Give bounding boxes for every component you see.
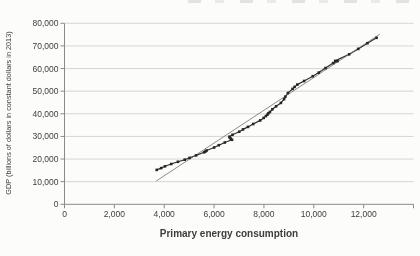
chart-figure: 010,00020,00030,00040,00050,00060,00070,… <box>0 0 420 256</box>
data-point-marker <box>228 135 231 138</box>
data-point-marker <box>224 141 227 144</box>
y-tick-label: 80,000 <box>33 18 59 28</box>
data-point-marker <box>366 42 369 45</box>
data-point-marker <box>155 169 158 172</box>
data-point-marker <box>218 144 221 147</box>
x-tick-label: 4,000 <box>154 209 176 219</box>
data-point-marker <box>318 71 321 74</box>
x-tick-label: 2,000 <box>104 209 126 219</box>
data-point-marker <box>312 75 315 78</box>
data-point-marker <box>280 102 283 105</box>
tick-labels: 010,00020,00030,00040,00050,00060,00070,… <box>33 18 377 219</box>
x-tick-label: 12,000 <box>351 209 377 219</box>
data-point-marker <box>269 111 272 114</box>
axes <box>61 23 414 208</box>
data-point-marker <box>284 95 287 98</box>
data-point-marker <box>252 123 255 126</box>
data-point-marker <box>160 167 163 170</box>
y-tick-label: 40,000 <box>33 109 59 119</box>
y-tick-label: 0 <box>54 199 59 209</box>
gdp-energy-chart: 010,00020,00030,00040,00050,00060,00070,… <box>0 0 420 256</box>
data-point-marker <box>231 134 234 137</box>
data-point-marker <box>238 130 241 133</box>
data-point-marker <box>357 48 360 51</box>
x-tick-label: 8,000 <box>253 209 275 219</box>
x-axis-title: Primary energy consumption <box>160 228 298 239</box>
data-point-marker <box>336 60 339 63</box>
y-tick-label: 10,000 <box>33 177 59 187</box>
data-point-marker <box>293 86 296 89</box>
data-point-marker <box>296 83 299 86</box>
data-point-marker <box>271 108 274 111</box>
y-tick-label: 60,000 <box>33 64 59 74</box>
y-tick-label: 30,000 <box>33 131 59 141</box>
y-tick-label: 70,000 <box>33 41 59 51</box>
data-point-marker <box>195 154 198 157</box>
y-tick-label: 20,000 <box>33 154 59 164</box>
y-tick-label: 50,000 <box>33 86 59 96</box>
data-point-marker <box>242 128 245 131</box>
data-point-marker <box>205 149 208 152</box>
data-point-marker <box>247 126 250 129</box>
data-point-marker <box>177 161 180 164</box>
data-point-marker <box>324 67 327 70</box>
data-point-marker <box>259 119 262 122</box>
y-axis-title: GDP (billions of dollars in constant dol… <box>4 31 13 194</box>
data-point-marker <box>375 37 378 40</box>
x-tick-label: 6,000 <box>203 209 225 219</box>
data-point-marker <box>334 60 337 63</box>
data-point-marker <box>283 98 286 101</box>
data-point-marker <box>183 158 186 161</box>
data-point-marker <box>287 92 290 95</box>
x-tick-label: 10,000 <box>301 209 327 219</box>
data-point-marker <box>275 105 278 108</box>
data-point-marker <box>188 157 191 160</box>
x-tick-label: 0 <box>62 209 67 219</box>
data-point-marker <box>213 146 216 149</box>
data-point-marker <box>164 165 167 168</box>
data-point-marker <box>170 163 173 166</box>
data-point-marker <box>348 53 351 56</box>
data-point-marker <box>303 80 306 83</box>
